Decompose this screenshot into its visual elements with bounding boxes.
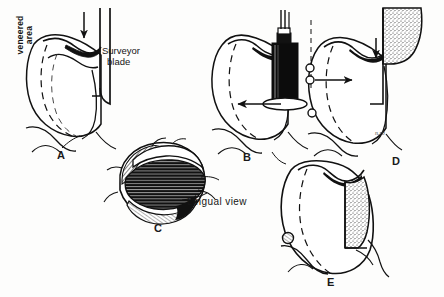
- panel-a-leader: [62, 136, 80, 148]
- surveyor-blade-line2: blade: [102, 56, 140, 67]
- surveyor-blade-line1: Surveyor: [102, 45, 140, 56]
- panel-b-drawing: [212, 10, 308, 154]
- panel-a-drawing: [26, 8, 116, 152]
- artist-signature: n.rb: [375, 130, 385, 136]
- panel-letter-c: C: [154, 223, 162, 234]
- panel-letter-e: E: [327, 277, 335, 288]
- panel-letter-a: A: [57, 150, 65, 161]
- figure-illustration: [0, 0, 444, 297]
- label-lingual-view: Lingual view: [187, 196, 247, 207]
- label-surveyor-blade: Surveyor blade: [102, 45, 140, 67]
- panel-letter-d: D: [392, 156, 400, 167]
- label-veneered-area: veneered area: [16, 4, 30, 66]
- panel-e-drawing: [272, 152, 389, 277]
- dental-figure: veneered area Surveyor blade Lingual vie…: [0, 0, 444, 297]
- panel-c-drawing: [104, 138, 219, 224]
- veneered-area-line2: area: [25, 4, 34, 66]
- panel-d-drawing: [306, 8, 422, 156]
- panel-letter-b: B: [243, 152, 251, 163]
